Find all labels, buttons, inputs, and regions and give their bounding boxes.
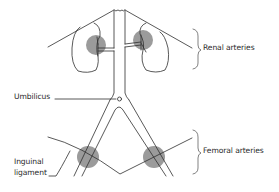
inguinal-leader bbox=[49, 151, 70, 176]
umbilicus-label: Umbilicus bbox=[14, 93, 50, 102]
femoral-bracket bbox=[193, 130, 201, 174]
inguinal-ligament bbox=[48, 137, 192, 174]
aorta-left-wall bbox=[110, 11, 114, 100]
left-renal-marker bbox=[86, 35, 106, 55]
aorta-right-wall bbox=[125, 11, 129, 100]
renal-bracket bbox=[193, 29, 201, 69]
inguinal-label-line1: Inguinal bbox=[14, 158, 44, 167]
renal-arteries-label: Renal arteries bbox=[203, 44, 254, 53]
umbilicus bbox=[118, 97, 122, 101]
inguinal-label-line2: ligament bbox=[14, 169, 47, 178]
femoral-arteries-label: Femoral arteries bbox=[203, 147, 264, 156]
aorta-top bbox=[114, 10, 125, 11]
